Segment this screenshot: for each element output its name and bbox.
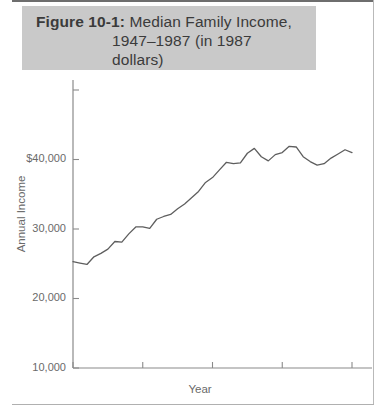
y-axis-title: Annual Income — [15, 164, 27, 264]
y-tick-label: $40,000 — [4, 152, 66, 164]
y-tick-label: 20,000 — [4, 291, 66, 303]
axis-ticks — [73, 90, 352, 368]
figure-title-line-1: Figure 10-1: Median Family Income, — [36, 12, 306, 31]
figure-number-label: Figure 10-1: — [36, 13, 125, 30]
income-series-line — [73, 146, 352, 264]
axes — [73, 80, 372, 368]
x-axis-title: Year — [140, 383, 260, 395]
figure-title-banner: Figure 10-1: Median Family Income, 1947–… — [22, 6, 316, 70]
figure-title-line-3: dollars) — [36, 50, 306, 69]
figure-title-line-2: 1947–1987 (in 1987 — [36, 31, 306, 50]
income-line-chart: $40,00030,00020,00010,0000 1947195719671… — [0, 70, 383, 405]
plot-canvas — [0, 70, 383, 405]
figure-title-text-1: Median Family Income, — [129, 13, 291, 30]
y-tick-label: 30,000 — [4, 222, 66, 234]
frame-top-rule — [12, 0, 374, 2]
y-tick-label: 10,000 — [4, 361, 66, 373]
